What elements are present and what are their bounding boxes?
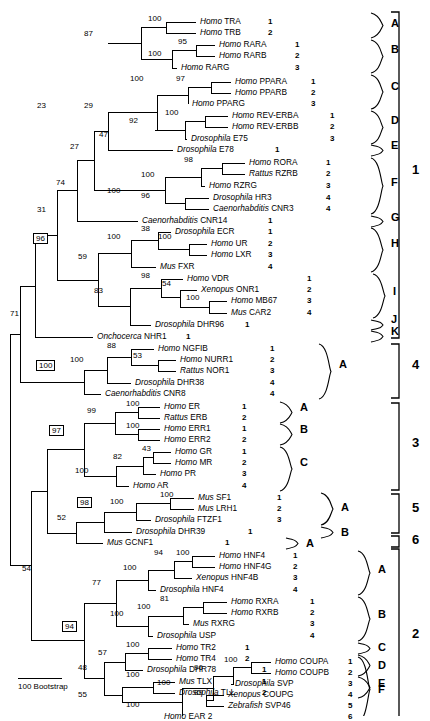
bootstrap-value: 100 <box>158 232 171 241</box>
taxon-label: Xenopus COUPG <box>228 690 294 699</box>
taxon-genus: Drosophila <box>155 514 195 524</box>
taxon-label: Homo EAR 2 <box>164 712 212 721</box>
taxon-genus: Rattus <box>249 168 273 178</box>
taxon-group-number: 3 <box>307 296 311 305</box>
taxon-gene: USP <box>199 630 216 640</box>
subgroup-brace <box>371 158 383 214</box>
taxon-gene: PPARA <box>259 76 287 86</box>
taxon-gene: MR <box>199 457 212 467</box>
bootstrap-value: 57 <box>98 648 107 657</box>
taxon-genus: Homo <box>219 550 241 560</box>
taxon-gene: TRA <box>224 16 241 26</box>
taxon-label: Homo TR2 <box>176 643 216 652</box>
bootstrap-value: 82 <box>113 452 122 461</box>
bootstrap-value: 100 <box>75 466 88 475</box>
taxon-group-number: 4 <box>348 690 352 699</box>
taxon-label: Homo UR <box>211 239 247 248</box>
subgroup-label: B <box>391 44 399 55</box>
taxon-group-number: 1 <box>245 320 249 329</box>
taxon-label: Homo PPARB <box>235 88 287 97</box>
taxon-genus: Homo <box>209 180 231 190</box>
subgroup-label: B <box>378 609 386 620</box>
taxon-genus: Homo <box>160 468 182 478</box>
taxon-label: Mus SF1 <box>198 493 231 502</box>
bootstrap-value: 97 <box>176 74 185 83</box>
taxon-group-number: 3 <box>330 134 334 143</box>
bootstrap-value: 88 <box>107 341 116 350</box>
taxon-label: Homo HNF4G <box>219 562 272 571</box>
taxon-genus: Homo <box>275 656 297 666</box>
subgroup-brace <box>371 111 383 144</box>
taxon-gene: HNF4B <box>231 572 258 582</box>
taxon-group-number: 1 <box>348 657 352 666</box>
taxon-genus: Homo <box>249 157 271 167</box>
taxon-gene: RARA <box>243 39 266 49</box>
taxon-group-number: 2 <box>242 413 246 422</box>
taxon-group-number: 4 <box>268 262 272 271</box>
bootstrap-value: 100 <box>141 170 154 179</box>
bootstrap-value: 53 <box>133 351 142 360</box>
taxon-gene: DHR38 <box>177 377 204 387</box>
taxon-group-number: 6 <box>348 712 352 721</box>
taxon-label: Drosophila DHR39 <box>136 527 205 536</box>
taxon-gene: RZRG <box>233 180 257 190</box>
taxon-genus: Onchocerca <box>97 331 142 341</box>
taxon-gene: NURR1 <box>204 354 233 364</box>
taxon-group-number: 2 <box>311 88 315 97</box>
taxon-genus: Mus <box>160 261 176 271</box>
taxon-label: Homo ERR1 <box>164 424 211 433</box>
taxon-gene: GR <box>199 446 211 456</box>
taxon-group-number: 1 <box>277 493 281 502</box>
bootstrap-value: 100 <box>160 490 173 499</box>
taxon-label: Homo RXRB <box>231 608 279 617</box>
bootstrap-value: 94 <box>62 621 77 632</box>
taxon-label: Homo RZRG <box>209 181 257 190</box>
bootstrap-value: 100 <box>165 108 178 117</box>
subgroup-brace <box>371 145 383 156</box>
taxon-label: Xenopus ONR1 <box>201 285 259 294</box>
taxon-genus: Homo <box>158 343 180 353</box>
taxon-gene: ECR <box>217 226 235 236</box>
bootstrap-value: 83 <box>94 286 103 295</box>
taxon-group-number: 3 <box>242 469 246 478</box>
bootstrap-value: 100 <box>110 497 123 506</box>
subgroup-label: C <box>300 457 308 468</box>
taxon-gene: NHR1 <box>144 331 167 341</box>
taxon-group-number: 1 <box>307 274 311 283</box>
taxon-label: Homo NGFIB <box>158 344 208 353</box>
class-label: 3 <box>412 436 419 449</box>
bootstrap-value: 100 <box>107 232 120 241</box>
bootstrap-value: 100 <box>110 609 123 618</box>
taxon-genus: Homo <box>200 16 222 26</box>
subgroup-brace <box>280 447 292 491</box>
subgroup-label: B <box>300 424 308 435</box>
class-bracket <box>391 403 399 490</box>
bootstrap-value: 96 <box>33 233 48 244</box>
taxon-group-number: 3 <box>348 679 352 688</box>
taxon-label: Homo ERR2 <box>164 435 211 444</box>
taxon-genus: Drosophila <box>235 678 275 688</box>
taxon-genus: Homo <box>133 480 155 490</box>
taxon-gene: VDR <box>211 273 229 283</box>
bootstrap-value: 31 <box>37 205 46 214</box>
bootstrap-value: 55 <box>78 690 87 699</box>
taxon-group-number: 4 <box>326 193 330 202</box>
taxon-group-number: 4 <box>326 204 330 213</box>
class-label: 4 <box>412 358 419 371</box>
taxon-group-number: 5 <box>348 701 352 710</box>
bootstrap-value: 100 <box>126 421 139 430</box>
taxon-genus: Mus <box>107 537 123 547</box>
bootstrap-value: 27 <box>70 142 79 151</box>
taxon-label: Drosophila DHR38 <box>135 378 204 387</box>
subgroup-label: B <box>341 527 349 538</box>
taxon-label: Homo TRA <box>200 17 241 26</box>
taxon-label: Drosophila HNF4 <box>160 585 224 594</box>
taxon-label: Drosophila DHR78 <box>147 665 216 674</box>
taxon-gene: PPARG <box>216 98 244 108</box>
bootstrap-value: 100 <box>148 14 161 23</box>
taxon-group-number: 2 <box>245 654 249 663</box>
taxon-gene: PR <box>184 468 196 478</box>
taxon-label: Onchocerca NHR1 <box>97 332 167 341</box>
subgroup-brace <box>321 493 333 525</box>
taxon-group-number: 4 <box>270 389 274 398</box>
